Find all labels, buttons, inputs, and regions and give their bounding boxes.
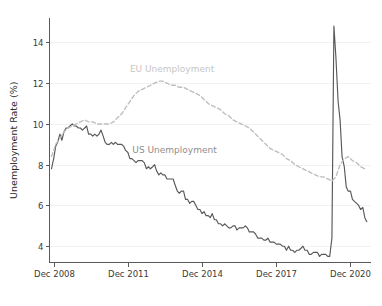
y-tick-label-14: 14 (33, 38, 44, 48)
x-tick-label-2: Dec 2014 (182, 269, 223, 279)
y-tick-label-12: 12 (33, 79, 44, 89)
y-tick-label-10: 10 (33, 120, 44, 130)
x-axis-ticks: Dec 2008Dec 2011Dec 2014Dec 2017Dec 2020 (34, 263, 371, 280)
y-axis-title: Unemployment Rate (%) (8, 82, 19, 199)
y-tick-label-6: 6 (38, 201, 43, 211)
x-tick-label-3: Dec 2017 (256, 269, 297, 279)
us-series-annotation: US Unemployment (132, 145, 217, 155)
x-tick-label-1: Dec 2011 (108, 269, 149, 279)
chart-container: 468101214 Dec 2008Dec 2011Dec 2014Dec 20… (0, 0, 382, 306)
y-axis-group: 468101214 (33, 18, 50, 263)
eu-series-annotation: EU Unemployment (130, 64, 215, 74)
unemployment-rate-line-chart: 468101214 Dec 2008Dec 2011Dec 2014Dec 20… (0, 0, 382, 306)
x-tick-label-4: Dec 2020 (330, 269, 371, 279)
series-group (51, 26, 366, 256)
y-tick-label-4: 4 (38, 242, 43, 252)
y-axis-ticks: 468101214 (33, 38, 50, 252)
series-line-eu (51, 81, 366, 181)
x-tick-label-0: Dec 2008 (34, 269, 75, 279)
x-axis-group: Dec 2008Dec 2011Dec 2014Dec 2017Dec 2020 (34, 263, 371, 280)
y-tick-label-8: 8 (38, 161, 43, 171)
series-line-us (51, 26, 366, 256)
annotations-group: EU UnemploymentUS Unemployment (130, 64, 217, 155)
